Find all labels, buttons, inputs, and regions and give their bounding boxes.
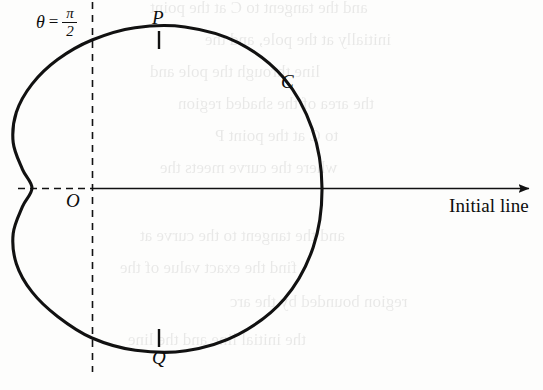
pole-label-O: O <box>66 191 80 210</box>
equals-sign: = <box>48 13 60 30</box>
theta-half-pi-label: θ = π 2 <box>36 5 77 38</box>
two-denominator: 2 <box>63 23 77 39</box>
polar-curve-figure: and the tangent to C at the point initia… <box>0 0 543 390</box>
point-label-Q: Q <box>152 348 166 367</box>
theta-symbol: θ <box>36 13 45 31</box>
point-label-P: P <box>152 8 164 27</box>
initial-line-label: Initial line <box>449 196 529 215</box>
curve-label-C: C <box>281 72 294 91</box>
pi-over-two-fraction: π 2 <box>62 6 77 39</box>
pi-numerator: π <box>63 6 77 22</box>
